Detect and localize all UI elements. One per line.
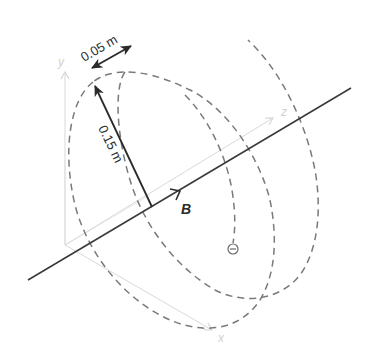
field-label: B <box>181 201 191 217</box>
helix-path <box>69 40 318 328</box>
radius-arrow <box>95 86 152 207</box>
x-axis <box>65 245 212 330</box>
pitch-label: 0.05 m <box>78 32 120 65</box>
helix-diagram: y z x B 0.15 m 0.05 m <box>0 0 369 357</box>
electron-icon <box>228 244 238 254</box>
x-axis-label: x <box>217 331 225 345</box>
coordinate-axes <box>65 72 273 330</box>
z-axis-label: z <box>280 105 287 119</box>
y-axis-label: y <box>57 55 65 69</box>
field-line <box>28 88 351 280</box>
